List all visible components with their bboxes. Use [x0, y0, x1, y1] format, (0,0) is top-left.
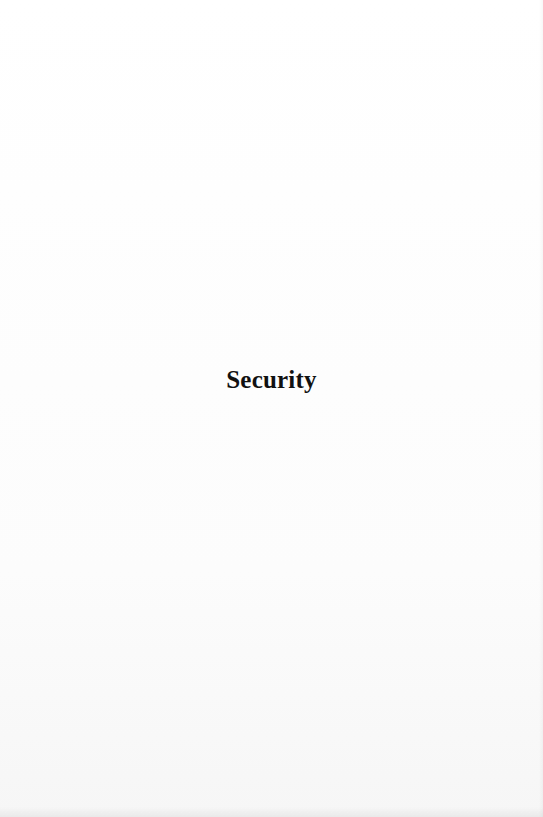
page-title: Security — [0, 366, 543, 394]
document-page: Security — [0, 0, 543, 817]
page-edge-shadow — [539, 0, 543, 817]
page-bottom-shadow — [0, 807, 543, 817]
